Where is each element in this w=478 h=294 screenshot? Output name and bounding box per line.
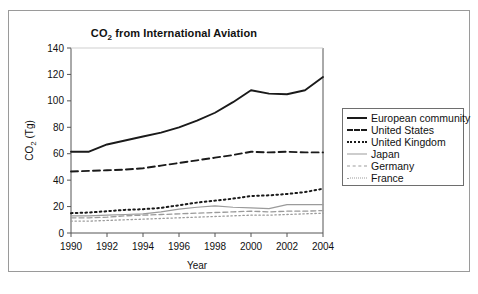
series-line-france xyxy=(71,213,323,221)
legend-item-japan[interactable]: Japan xyxy=(347,148,463,160)
y-tick-label: 140 xyxy=(47,43,64,54)
legend-label: United Kingdom xyxy=(371,136,446,148)
legend-swatch-line-icon xyxy=(347,113,367,123)
figure-frame: CO2 from International Aviation 02040608… xyxy=(8,10,470,272)
screenshot-page: CO2 from International Aviation 02040608… xyxy=(0,0,478,294)
x-tick-label: 2002 xyxy=(276,241,299,252)
x-tick-label: 1998 xyxy=(204,241,227,252)
legend-item-united-kingdom[interactable]: United Kingdom xyxy=(347,136,463,148)
legend-label: European community xyxy=(371,112,470,124)
legend-item-germany[interactable]: Germany xyxy=(347,160,463,172)
x-axis-title: Year xyxy=(187,260,208,271)
x-tick-label: 1990 xyxy=(60,241,83,252)
y-tick-label: 100 xyxy=(47,95,64,106)
legend-label: France xyxy=(371,172,404,184)
y-tick-label: 120 xyxy=(47,69,64,80)
x-tick-label: 1992 xyxy=(96,241,119,252)
y-tick-label: 80 xyxy=(53,122,65,133)
legend-item-france[interactable]: France xyxy=(347,172,463,184)
x-tick-label: 2004 xyxy=(312,241,335,252)
x-tick-label: 1996 xyxy=(168,241,191,252)
y-tick-label: 60 xyxy=(53,148,65,159)
series-line-european-community xyxy=(71,77,323,152)
legend-item-european-community[interactable]: European community xyxy=(347,112,463,124)
x-tick-label: 1994 xyxy=(132,241,155,252)
legend-swatch-line-icon xyxy=(347,173,367,183)
y-axis-title: CO2 (Tg) xyxy=(24,120,38,161)
legend-swatch-line-icon xyxy=(347,137,367,147)
legend-swatch-line-icon xyxy=(347,149,367,159)
legend-item-united-states[interactable]: United States xyxy=(347,124,463,136)
series-line-united-states xyxy=(71,152,323,172)
legend-label: United States xyxy=(371,124,434,136)
y-tick-label: 20 xyxy=(53,201,65,212)
y-tick-label: 40 xyxy=(53,175,65,186)
legend-swatch-line-icon xyxy=(347,125,367,135)
legend-swatch-line-icon xyxy=(347,161,367,171)
legend-label: Japan xyxy=(371,148,400,160)
legend-label: Germany xyxy=(371,160,414,172)
y-tick-label: 0 xyxy=(58,228,64,239)
series-line-united-kingdom xyxy=(71,189,323,213)
legend: European community United States United … xyxy=(342,108,464,186)
x-tick-label: 2000 xyxy=(240,241,263,252)
